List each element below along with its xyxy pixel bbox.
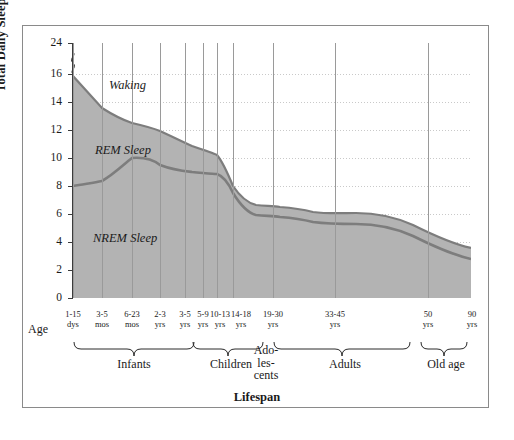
x-tick-1: 3-5 mos	[85, 310, 119, 329]
x-tick-9: 33-45 yrs	[318, 310, 352, 329]
vgridline-2	[102, 43, 103, 298]
vgridline-9	[273, 43, 274, 298]
brace-oldage	[421, 342, 467, 356]
y-tick-0: 0	[40, 292, 62, 304]
x-tick-7: 14-18 yrs	[224, 310, 258, 329]
vgridline-1	[73, 43, 74, 298]
vgridline-6	[203, 43, 204, 298]
vgridline-11	[428, 43, 429, 298]
brace-infants	[74, 342, 194, 356]
x-tick-10: 50 yrs	[411, 310, 445, 329]
x-tick-9-bottom: yrs	[318, 320, 352, 330]
x-tick-8-bottom: yrs	[256, 320, 290, 330]
y-tick-12: 12	[40, 124, 62, 136]
rem-sleep-label: REM Sleep	[95, 143, 151, 158]
y-tick-4: 4	[40, 236, 62, 248]
y-tick-14: 14	[40, 96, 62, 108]
y-tick-24: 24	[40, 37, 62, 49]
group-label-adults: Adults	[274, 358, 416, 371]
y-tick-8: 8	[40, 180, 62, 192]
y-tick-16: 16	[40, 68, 62, 80]
waking-label: Waking	[109, 78, 146, 93]
brace-adolescents	[274, 342, 410, 356]
vgridline-7	[217, 43, 218, 298]
vgridline-5	[185, 43, 186, 298]
x-tick-11-bottom: yrs	[455, 320, 489, 330]
x-tick-7-bottom: yrs	[224, 320, 258, 330]
y-tick-2: 2	[40, 264, 62, 276]
y-axis-title: Total Daily Sleep (In hours)	[0, 0, 9, 92]
y-tick-10: 10	[40, 152, 62, 164]
nrem-sleep-label: NREM Sleep	[93, 231, 157, 246]
vgridline-8	[233, 43, 234, 298]
x-tick-1-bottom: mos	[85, 320, 119, 330]
x-tick-11: 90 yrs	[455, 310, 489, 329]
x-tick-10-bottom: yrs	[411, 320, 445, 330]
x-tick-8: 19-30 yrs	[256, 310, 290, 329]
vgridline-10	[335, 43, 336, 298]
vgridline-4	[160, 43, 161, 298]
group-label-old-age: Old age	[415, 358, 477, 371]
y-tick-6: 6	[40, 208, 62, 220]
group-label-infants: Infants	[74, 358, 194, 371]
sleep-lifespan-figure: 24 16 14 12 10 8 6 4 2 0 Total Daily Sle…	[0, 0, 514, 440]
plot-area: Waking REM Sleep NREM Sleep	[73, 43, 471, 298]
x-axis-title: Lifespan	[0, 390, 514, 405]
age-axis-label: Age	[28, 322, 48, 337]
